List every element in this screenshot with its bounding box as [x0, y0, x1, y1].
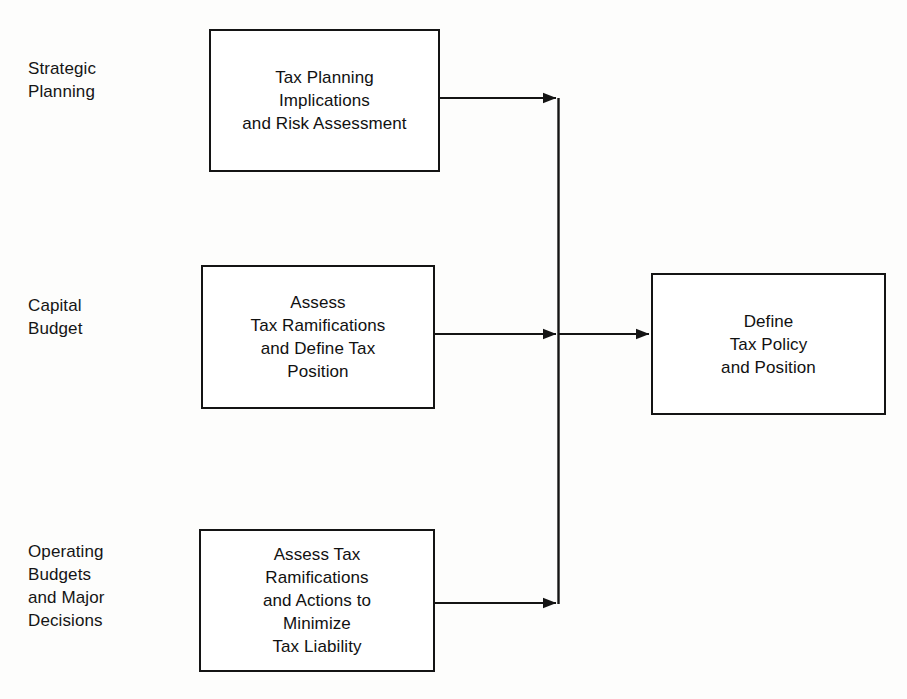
diagram-canvas: Strategic Planning Capital Budget Operat… — [0, 0, 907, 699]
stage-label-operating-budgets: Operating Budgets and Major Decisions — [28, 540, 105, 632]
process-box-tax-planning-implications-text: Tax Planning Implications and Risk Asses… — [242, 66, 406, 135]
process-box-assess-tax-minimize-liability-text: Assess Tax Ramifications and Actions to … — [263, 543, 371, 658]
process-box-tax-planning-implications[interactable]: Tax Planning Implications and Risk Asses… — [209, 29, 440, 172]
stage-label-strategic-planning: Strategic Planning — [28, 57, 96, 103]
outcome-box-define-tax-policy-text: Define Tax Policy and Position — [721, 310, 816, 379]
process-box-assess-tax-minimize-liability[interactable]: Assess Tax Ramifications and Actions to … — [199, 529, 435, 672]
outcome-box-define-tax-policy[interactable]: Define Tax Policy and Position — [651, 273, 886, 415]
process-box-assess-tax-ramifications-text: Assess Tax Ramifications and Define Tax … — [251, 291, 386, 383]
process-box-assess-tax-ramifications[interactable]: Assess Tax Ramifications and Define Tax … — [201, 265, 435, 409]
stage-label-capital-budget: Capital Budget — [28, 294, 82, 340]
